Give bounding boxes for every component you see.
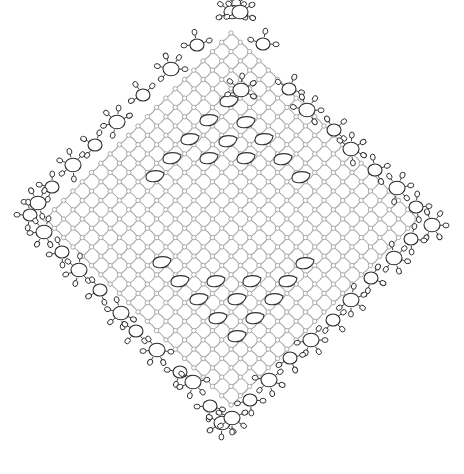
teardrop-motif	[296, 258, 314, 269]
edge-ring-small	[247, 28, 279, 50]
teardrop-motif	[146, 171, 164, 182]
edge-ring-large	[104, 296, 137, 330]
teardrop-motif	[209, 313, 227, 324]
edge-ring-small	[364, 263, 387, 294]
edge-ring-small	[274, 73, 305, 95]
edge-ring-large	[176, 370, 210, 399]
teardrop-motif	[220, 96, 238, 107]
edge-ring-large	[56, 148, 86, 182]
teardrop-motif	[237, 117, 255, 128]
edge-ring-small	[46, 236, 69, 268]
edge-ring-large	[423, 208, 449, 241]
edge-ring-small	[121, 321, 148, 345]
teardrop-motif	[228, 294, 246, 305]
teardrop-motif	[163, 153, 181, 164]
edge-ring-small	[324, 115, 348, 142]
lace-diagram	[0, 0, 464, 474]
teardrop-motif	[200, 153, 218, 164]
mesh-picots	[43, 31, 419, 407]
teardrop-motif	[228, 331, 246, 342]
edge-ring-small	[128, 81, 157, 105]
teardrop-motif	[219, 136, 237, 147]
edge-ring-large	[382, 241, 411, 275]
teardrop-motif	[237, 153, 255, 164]
teardrop-motif	[265, 294, 283, 305]
edge-ring-small	[181, 29, 213, 51]
edge-ring-small	[368, 154, 391, 185]
edge-ring-large	[62, 253, 92, 287]
edge-ring-large	[252, 368, 286, 397]
